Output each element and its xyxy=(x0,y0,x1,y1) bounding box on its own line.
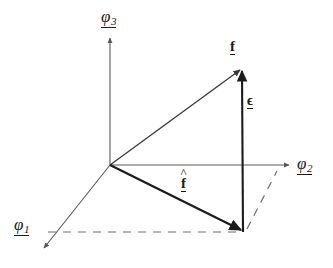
vector-label-epsilon: ϵ xyxy=(247,92,253,109)
axis-phi1-line xyxy=(44,165,110,248)
axis-label-phi1-subscript: 1 xyxy=(24,223,30,235)
axis-label-phi1: φ1 xyxy=(14,216,29,236)
vector-label-f-symbol: f xyxy=(230,38,235,54)
diagram-canvas xyxy=(0,0,333,268)
hat-accent-icon: ^ xyxy=(180,166,186,179)
axis-label-phi2: φ2 xyxy=(297,155,312,175)
axis-label-phi1-symbol: φ xyxy=(14,215,23,234)
vector-label-f-hat: ^f xyxy=(181,175,186,192)
vector-label-f: f xyxy=(230,38,235,55)
vector-f-hat-line xyxy=(110,165,241,230)
vector-diagram-figure: φ3 φ2 φ1 f ϵ ^f xyxy=(0,0,333,268)
vector-f-line xyxy=(110,70,240,165)
axis-label-phi3: φ3 xyxy=(101,8,116,28)
axis-label-phi3-subscript: 3 xyxy=(111,15,117,27)
dashed-diagonal-line xyxy=(247,171,277,229)
vector-label-epsilon-symbol: ϵ xyxy=(247,93,253,108)
axis-label-phi2-subscript: 2 xyxy=(307,162,313,174)
axis-label-phi2-symbol: φ xyxy=(297,154,306,173)
axis-label-phi3-symbol: φ xyxy=(101,7,110,26)
vector-epsilon-line xyxy=(242,71,243,232)
